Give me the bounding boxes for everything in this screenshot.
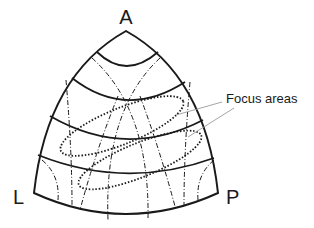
vertex-label-p: P bbox=[226, 186, 239, 208]
focus-area-ellipse-upper bbox=[54, 85, 190, 168]
vertex-label-l: L bbox=[13, 186, 24, 208]
focus-areas-diagram: A L P Focus areas bbox=[0, 0, 314, 228]
focus-area-ellipse-lower bbox=[72, 120, 207, 201]
vertex-label-a: A bbox=[119, 6, 133, 28]
focus-areas-label: Focus areas bbox=[226, 91, 298, 106]
